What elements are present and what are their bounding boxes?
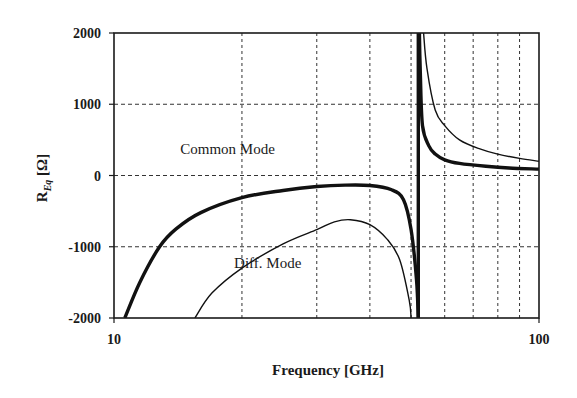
diff-mode-label: Diff. Mode	[234, 255, 302, 271]
common-mode-curve	[125, 185, 419, 318]
y-tick-label: 0	[94, 169, 101, 184]
diff-mode-curve	[424, 33, 539, 161]
y-axis-title-sub: Eq	[42, 180, 53, 193]
annotations: Common ModeDiff. Mode	[180, 141, 301, 271]
x-axis-title: Frequency [GHz]	[272, 362, 384, 378]
x-tick-label: 100	[529, 332, 550, 347]
x-tick-label: 10	[107, 332, 121, 347]
y-tick-label: 1000	[73, 97, 101, 112]
y-tick-label: 2000	[73, 26, 101, 41]
y-tick-label: -2000	[68, 311, 101, 326]
y-axis-title: REq [Ω]	[34, 154, 53, 202]
x-axis-ticks: 10100	[107, 318, 550, 347]
chart: 200010000-1000-2000 10100 Frequency [GHz…	[0, 0, 577, 398]
y-axis-ticks: 200010000-1000-2000	[68, 26, 114, 326]
common-mode-label: Common Mode	[180, 141, 275, 157]
y-axis-title-unit: [Ω]	[34, 154, 50, 180]
diff-mode-curve	[195, 220, 411, 318]
y-tick-label: -1000	[68, 240, 101, 255]
grid-lines	[114, 33, 539, 318]
y-axis-title-main: R	[34, 191, 50, 202]
